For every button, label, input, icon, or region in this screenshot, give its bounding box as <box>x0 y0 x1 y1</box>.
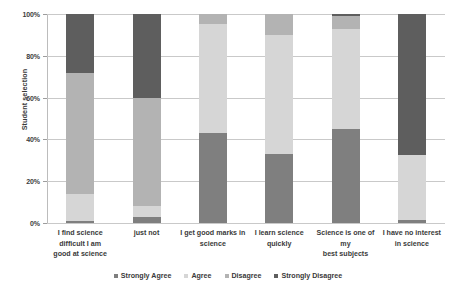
bar-slot <box>332 14 360 223</box>
x-axis-label-line: science <box>180 239 246 250</box>
bar-segment[interactable] <box>66 221 94 223</box>
x-axis-labels: I find science difficult I amgood at sci… <box>47 228 445 260</box>
legend-swatch-icon <box>184 274 188 278</box>
stacked-bar[interactable] <box>265 14 293 223</box>
y-axis-tick-label: 60% <box>26 94 40 101</box>
legend-item[interactable]: Strongly Disagree <box>274 272 342 280</box>
chart-legend: Strongly AgreeAgreeDisagreeStrongly Disa… <box>0 272 456 280</box>
y-axis-tick <box>43 223 47 224</box>
legend-item[interactable]: Disagree <box>225 272 262 280</box>
legend-swatch-icon <box>274 274 278 278</box>
legend-label: Strongly Disagree <box>281 272 342 280</box>
bar-segment[interactable] <box>133 206 161 216</box>
bar-segment[interactable] <box>133 217 161 223</box>
x-axis-label-line: in science <box>379 239 445 250</box>
x-axis-label-line: quickly <box>246 239 312 250</box>
x-axis-label: Science is one of mybest subjects <box>312 228 378 260</box>
stacked-bar[interactable] <box>398 14 426 223</box>
x-axis-label: I have no interestin science <box>379 228 445 249</box>
legend-swatch-icon <box>225 274 229 278</box>
x-axis-label-line: good at science <box>47 249 113 260</box>
x-axis-label-line: I get good marks in <box>180 228 246 239</box>
x-axis-label: I get good marks inscience <box>180 228 246 249</box>
x-axis-label: I find science difficult I amgood at sci… <box>47 228 113 260</box>
legend-item[interactable]: Agree <box>184 272 211 280</box>
bar-segment[interactable] <box>66 14 94 73</box>
x-axis-label: just not <box>113 228 179 239</box>
gridline <box>47 223 445 224</box>
bar-group <box>47 14 445 223</box>
x-axis-label-line: best subjects <box>312 249 378 260</box>
x-axis-label-line: I find science difficult I am <box>47 228 113 249</box>
plot-area: 0%20%40%60%80%100% <box>47 14 445 223</box>
legend-label: Agree <box>191 272 211 280</box>
x-axis-label-line: I learn science <box>246 228 312 239</box>
y-axis-tick-label: 20% <box>26 178 40 185</box>
y-axis-tick-label: 100% <box>22 11 40 18</box>
bar-slot <box>133 14 161 223</box>
y-axis-tick-label: 80% <box>26 52 40 59</box>
bar-segment[interactable] <box>199 24 227 133</box>
stacked-bar[interactable] <box>199 14 227 223</box>
bar-segment[interactable] <box>398 220 426 223</box>
legend-label: Disagree <box>232 272 262 280</box>
stacked-bar[interactable] <box>66 14 94 223</box>
bar-segment[interactable] <box>265 154 293 223</box>
legend-item[interactable]: Strongly Agree <box>114 272 172 280</box>
legend-label: Strongly Agree <box>121 272 172 280</box>
stacked-bar[interactable] <box>133 14 161 223</box>
x-axis-label-line: Science is one of my <box>312 228 378 249</box>
x-axis-label-line: just not <box>113 228 179 239</box>
bar-segment[interactable] <box>133 98 161 207</box>
bar-segment[interactable] <box>66 73 94 194</box>
bar-segment[interactable] <box>265 35 293 154</box>
bar-slot <box>199 14 227 223</box>
bar-slot <box>398 14 426 223</box>
bar-slot <box>66 14 94 223</box>
bar-segment[interactable] <box>398 155 426 220</box>
bar-segment[interactable] <box>265 14 293 35</box>
bar-segment[interactable] <box>66 194 94 221</box>
bar-segment[interactable] <box>332 16 360 29</box>
y-axis-tick-label: 0% <box>30 220 40 227</box>
bar-segment[interactable] <box>398 14 426 155</box>
x-axis-label: I learn sciencequickly <box>246 228 312 249</box>
x-axis-label-line: I have no interest <box>379 228 445 239</box>
bar-segment[interactable] <box>332 14 360 16</box>
y-axis-tick-label: 40% <box>26 136 40 143</box>
bar-slot <box>265 14 293 223</box>
stacked-bar-chart: Student selection 0%20%40%60%80%100% I f… <box>0 0 456 295</box>
bar-segment[interactable] <box>133 14 161 98</box>
bar-segment[interactable] <box>199 14 227 24</box>
legend-swatch-icon <box>114 274 118 278</box>
bar-segment[interactable] <box>332 29 360 129</box>
stacked-bar[interactable] <box>332 14 360 223</box>
bar-segment[interactable] <box>332 129 360 223</box>
bar-segment[interactable] <box>199 133 227 223</box>
